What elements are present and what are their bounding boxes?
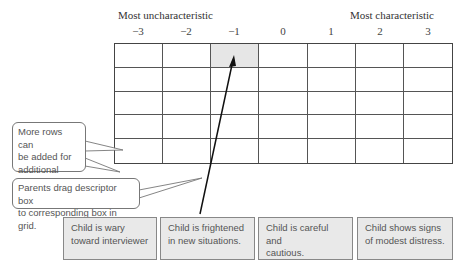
descriptor-box-wary[interactable]: Child is wary toward interviewer bbox=[63, 217, 157, 260]
arrowhead-icon bbox=[229, 55, 236, 67]
callout-drag-instructions: Parents drag descriptor box to correspon… bbox=[12, 178, 140, 209]
descriptor-box-frightened[interactable]: Child is frightened in new situations. bbox=[160, 217, 255, 260]
descriptor-box-distress[interactable]: Child shows signs of modest distress. bbox=[357, 217, 453, 260]
descriptor-box-careful[interactable]: Child is careful and cautious. bbox=[258, 217, 353, 260]
drag-arrow bbox=[200, 60, 233, 214]
callout-more-rows: More rows can be added for additional it… bbox=[12, 122, 86, 172]
